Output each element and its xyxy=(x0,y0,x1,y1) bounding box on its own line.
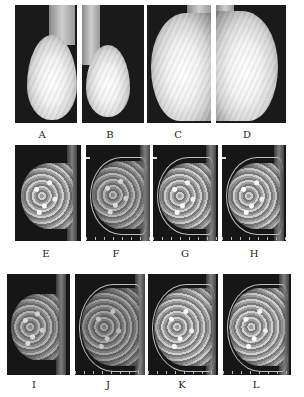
marker xyxy=(86,157,90,159)
panel-a-label: A xyxy=(32,129,52,140)
marker xyxy=(222,157,226,159)
panel-i-label: I xyxy=(24,379,44,390)
panel-j-label: J xyxy=(98,379,118,390)
panel-k-image xyxy=(148,274,218,375)
panel-e-image xyxy=(15,145,81,241)
panel-b-image xyxy=(82,5,144,123)
scale-ticks xyxy=(153,237,218,240)
skin-line xyxy=(90,157,147,235)
skin-line xyxy=(152,284,215,372)
skin-line xyxy=(79,284,142,372)
scale-ticks xyxy=(75,371,145,374)
panel-l-image xyxy=(223,274,291,375)
breast-tissue xyxy=(27,35,77,120)
marker xyxy=(153,157,157,159)
panel-j-image xyxy=(75,274,145,375)
skin-line xyxy=(227,284,288,372)
panel-g-image xyxy=(153,145,218,241)
scale-ticks xyxy=(86,237,150,240)
scale-ticks xyxy=(223,371,291,374)
panel-h-image xyxy=(222,145,286,241)
breast-tissue xyxy=(151,13,211,121)
panel-g-label: G xyxy=(175,248,195,259)
panel-c-image xyxy=(147,5,211,123)
panel-a-image xyxy=(15,5,77,123)
panel-i-image xyxy=(7,274,70,375)
panel-d-image xyxy=(216,5,286,123)
skin-line xyxy=(226,157,283,235)
scale-ticks xyxy=(222,237,286,240)
breast-tissue xyxy=(21,163,73,229)
panel-e-label: E xyxy=(36,248,56,259)
panel-b-label: B xyxy=(100,129,120,140)
breast-tissue xyxy=(11,294,59,360)
breast-tissue xyxy=(86,45,130,117)
panel-c-label: C xyxy=(168,129,188,140)
skin-line xyxy=(157,157,214,235)
panel-h-label: H xyxy=(244,248,264,259)
panel-f-image xyxy=(86,145,150,241)
panel-d-label: D xyxy=(237,129,257,140)
breast-tissue xyxy=(216,11,278,121)
panel-l-label: L xyxy=(246,379,266,390)
panel-f-label: F xyxy=(106,248,126,259)
panel-k-label: K xyxy=(172,379,192,390)
scale-ticks xyxy=(148,371,218,374)
